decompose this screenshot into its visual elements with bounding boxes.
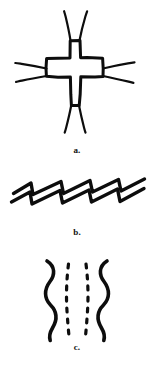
- figure-plate: a. b. c.: [0, 0, 154, 370]
- figure-a-drawing: [0, 0, 154, 145]
- zigzag-line-upper: [14, 179, 145, 195]
- figure-b-caption: b.: [0, 228, 154, 237]
- cross-left-rays: [15, 63, 46, 82]
- figure-c: c.: [0, 250, 154, 370]
- figure-c-drawing: [0, 250, 154, 370]
- cross-right-rays: [103, 62, 135, 83]
- wavy-line-left: [46, 261, 56, 341]
- cross-outline: [46, 41, 103, 106]
- figure-a-caption: a.: [0, 146, 154, 155]
- cross-top-rays: [64, 11, 87, 40]
- figure-a: a.: [0, 0, 154, 165]
- figure-c-caption: c.: [0, 343, 154, 352]
- dashed-line-left: [67, 264, 70, 336]
- figure-b-drawing: [0, 165, 154, 250]
- wavy-line-right: [98, 261, 108, 341]
- dashed-line-right: [86, 264, 89, 336]
- figure-b: b.: [0, 165, 154, 250]
- cross-bottom-rays: [65, 106, 86, 133]
